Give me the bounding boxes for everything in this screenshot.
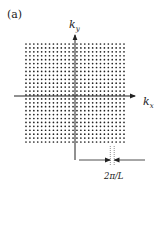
lattice-point	[37, 67, 39, 69]
lattice-point	[64, 90, 66, 92]
lattice-point	[100, 114, 102, 116]
lattice-point	[68, 67, 70, 69]
lattice-point	[100, 118, 102, 120]
lattice-point	[92, 122, 94, 124]
lattice-point	[60, 102, 62, 104]
lattice-point	[29, 55, 31, 57]
lattice-point	[57, 78, 59, 80]
lattice-point	[49, 141, 51, 143]
lattice-point	[68, 71, 70, 73]
lattice-point	[76, 63, 78, 65]
lattice-point	[119, 82, 121, 84]
lattice-point	[119, 114, 121, 116]
lattice-point	[119, 129, 121, 131]
lattice-point	[76, 110, 78, 112]
lattice-point	[92, 118, 94, 120]
lattice-point	[25, 110, 27, 112]
lattice-point	[41, 125, 43, 127]
lattice-point	[100, 122, 102, 124]
lattice-point	[57, 137, 59, 139]
lattice-point	[49, 122, 51, 124]
lattice-point	[68, 86, 70, 88]
lattice-point	[84, 71, 86, 73]
lattice-point	[84, 75, 86, 77]
lattice-point	[64, 122, 66, 124]
lattice-point	[104, 78, 106, 80]
lattice-point	[64, 59, 66, 61]
lattice-point	[60, 67, 62, 69]
lattice-point	[25, 114, 27, 116]
lattice-point	[53, 98, 55, 100]
lattice-point	[96, 86, 98, 88]
lattice-point	[88, 141, 90, 143]
lattice-point	[45, 122, 47, 124]
lattice-point	[88, 82, 90, 84]
lattice-point	[88, 110, 90, 112]
lattice-point	[80, 137, 82, 139]
lattice-point	[107, 71, 109, 73]
lattice-point	[25, 55, 27, 57]
lattice-point	[84, 106, 86, 108]
lattice-point	[107, 137, 109, 139]
lattice-point	[60, 63, 62, 65]
lattice-point	[60, 82, 62, 84]
lattice-point	[68, 122, 70, 124]
lattice-point	[57, 55, 59, 57]
lattice-point	[111, 63, 113, 65]
lattice-point	[37, 90, 39, 92]
lattice-point	[96, 90, 98, 92]
lattice-point	[41, 106, 43, 108]
lattice-point	[72, 71, 74, 73]
lattice-point	[68, 63, 70, 65]
lattice-point	[107, 129, 109, 131]
lattice-point	[107, 63, 109, 65]
lattice-point	[76, 133, 78, 135]
lattice-point	[107, 141, 109, 143]
lattice-point	[57, 67, 59, 69]
lattice-point	[53, 106, 55, 108]
lattice-point	[80, 55, 82, 57]
lattice-point	[72, 129, 74, 131]
lattice-point	[57, 63, 59, 65]
lattice-point	[111, 86, 113, 88]
lattice-point	[72, 86, 74, 88]
lattice-point	[41, 71, 43, 73]
lattice-point	[72, 67, 74, 69]
spacing-label: 2π/L	[103, 171, 124, 181]
lattice-point	[41, 90, 43, 92]
lattice-point	[100, 129, 102, 131]
lattice-point	[29, 129, 31, 131]
lattice-point	[123, 51, 125, 53]
lattice-point	[64, 71, 66, 73]
lattice-point	[107, 114, 109, 116]
lattice-point	[76, 78, 78, 80]
lattice-point	[76, 82, 78, 84]
lattice-point	[88, 59, 90, 61]
lattice-point	[37, 118, 39, 120]
lattice-point	[60, 110, 62, 112]
lattice-point	[33, 63, 35, 65]
lattice-point	[76, 106, 78, 108]
lattice-point	[92, 78, 94, 80]
lattice-point	[72, 78, 74, 80]
lattice-point	[123, 71, 125, 73]
lattice-point	[84, 47, 86, 49]
lattice-point	[29, 78, 31, 80]
lattice-point	[84, 118, 86, 120]
lattice-point	[37, 125, 39, 127]
lattice-point	[76, 75, 78, 77]
lattice-point	[49, 75, 51, 77]
lattice-point	[37, 106, 39, 108]
lattice-point	[104, 86, 106, 88]
lattice-point	[115, 122, 117, 124]
lattice-point	[68, 110, 70, 112]
lattice-point	[123, 90, 125, 92]
lattice-point	[60, 55, 62, 57]
lattice-point	[115, 129, 117, 131]
lattice-point	[33, 102, 35, 104]
lattice-point	[100, 59, 102, 61]
lattice-point	[72, 82, 74, 84]
lattice-point	[49, 118, 51, 120]
lattice-point	[123, 114, 125, 116]
lattice-point	[25, 137, 27, 139]
